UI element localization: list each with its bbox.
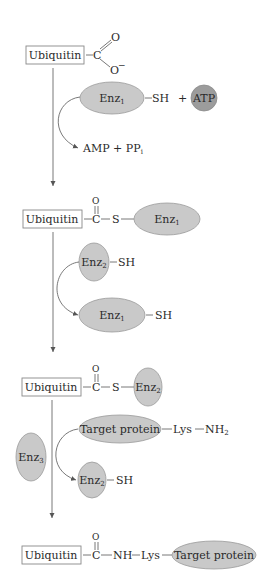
sulfur-label: S <box>112 213 120 226</box>
carbon-label: C <box>92 381 100 394</box>
single-bond <box>100 59 110 67</box>
ubiquitin-label: Ubiquitin <box>25 549 78 562</box>
sh-label: SH <box>152 92 169 105</box>
sh-label: SH <box>155 309 172 322</box>
plus-sign: + <box>178 92 187 105</box>
curved-arrow-3 <box>56 429 78 480</box>
target-protein-label: Target protein <box>80 423 160 436</box>
enz2-sh: Enz2 SH <box>79 243 135 281</box>
sh-label: SH <box>116 474 133 487</box>
oxygen-label: O <box>92 532 99 542</box>
oxygen-label: O <box>92 364 99 374</box>
lys-label: Lys <box>141 549 160 562</box>
carbon-label: C <box>92 213 100 226</box>
negative-charge: − <box>118 60 126 70</box>
atp-label: ATP <box>192 92 216 105</box>
carbon-label: C <box>92 549 100 562</box>
ubiquitin-label: Ubiquitin <box>25 381 78 394</box>
curved-arrow-2 <box>57 262 79 315</box>
step-1-ubiquitin-carboxylate: Ubiquitin C O O − <box>26 31 126 77</box>
step-2-ubiquitin-thioester-enz1: Ubiquitin C O S Enz1 <box>23 196 200 235</box>
ubiquitination-diagram: Ubiquitin C O O − Enz1 SH + ATP AMP + PP… <box>0 0 262 584</box>
step-4-ubiquitinated-target: Ubiquitin C O NH Lys Target protein <box>22 532 256 569</box>
enz2-sh-released: Enz2 SH <box>78 462 133 498</box>
oxygen-label: O <box>111 31 120 44</box>
sh-label: SH <box>118 256 135 269</box>
enz1-sh-atp: Enz1 SH + ATP <box>80 82 217 114</box>
sulfur-label: S <box>112 381 120 394</box>
enz3-ligase: Enz3 <box>16 433 46 481</box>
amp-ppi-label: AMP + PPi <box>82 142 144 156</box>
nh2-label: NH2 <box>205 423 229 437</box>
ubiquitin-label: Ubiquitin <box>26 213 79 226</box>
oxygen-label: O <box>92 196 99 206</box>
step-3-ubiquitin-thioester-enz2: Ubiquitin C O S Enz2 <box>22 364 162 406</box>
carbon-label: C <box>93 49 101 62</box>
target-protein-lys-nh2: Target protein Lys NH2 <box>79 415 229 443</box>
enz1-sh-released: Enz1 SH <box>79 298 172 332</box>
target-protein-label: Target protein <box>174 549 254 562</box>
nh-label: NH <box>113 549 132 562</box>
lys-label: Lys <box>173 423 192 436</box>
curved-arrow-1 <box>58 97 80 148</box>
ubiquitin-label: Ubiquitin <box>29 49 82 62</box>
